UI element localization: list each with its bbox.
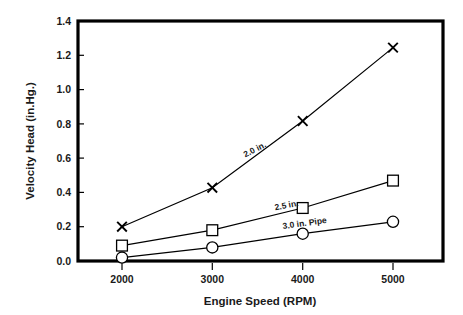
x-tick-label: 5000 bbox=[381, 273, 405, 285]
x-axis-title: Engine Speed (RPM) bbox=[204, 295, 317, 307]
chart-figure: 0.0 0.2 0.4 0.6 0.8 1.0 1.2 1.4 2000 300… bbox=[0, 0, 463, 315]
x-tick-label: 4000 bbox=[291, 273, 315, 285]
x-tick-label: 3000 bbox=[201, 273, 225, 285]
y-tick-label: 1.0 bbox=[56, 83, 71, 95]
y-tick-label: 0.8 bbox=[56, 118, 71, 130]
y-tick-label: 1.2 bbox=[56, 49, 71, 61]
x-tick-label: 2000 bbox=[110, 273, 134, 285]
y-tick-label: 0.0 bbox=[56, 255, 71, 267]
y-tick-label: 1.4 bbox=[56, 15, 71, 27]
y-tick-label: 0.4 bbox=[56, 186, 71, 198]
y-tick-label: 0.6 bbox=[56, 152, 71, 164]
y-axis-title: Velocity Head (in.Hg.) bbox=[24, 82, 36, 200]
y-tick-label: 0.2 bbox=[56, 220, 71, 232]
velocity-head-line-chart: 0.0 0.2 0.4 0.6 0.8 1.0 1.2 1.4 2000 300… bbox=[0, 0, 463, 315]
